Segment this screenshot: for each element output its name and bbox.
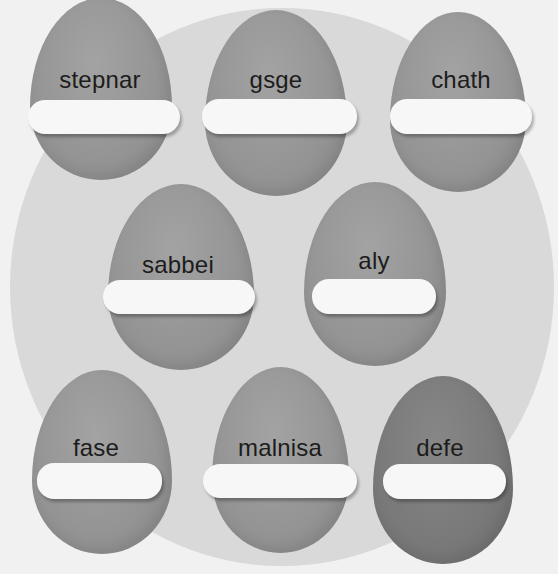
answer-field-chath[interactable]	[390, 99, 532, 134]
answer-field-aly[interactable]	[312, 279, 436, 314]
scrambled-word: aly	[358, 247, 389, 275]
scrambled-word: fase	[73, 434, 119, 462]
answer-field-malnisa[interactable]	[203, 464, 357, 498]
answer-field-defe[interactable]	[383, 464, 506, 499]
scrambled-word: gsge	[250, 66, 303, 94]
answer-field-gsge[interactable]	[202, 99, 357, 134]
answer-field-fase[interactable]	[37, 463, 162, 499]
scrambled-word: defe	[416, 434, 464, 462]
answer-field-stepnar[interactable]	[28, 100, 180, 134]
scrambled-word: sabbei	[142, 251, 214, 279]
scrambled-word: stepnar	[59, 66, 140, 94]
scrambled-word: chath	[431, 66, 491, 94]
answer-field-sabbei[interactable]	[103, 280, 255, 314]
scrambled-word: malnisa	[238, 434, 322, 462]
egg-word-worksheet: stepnar gsge chath sabbei aly fase malni…	[0, 0, 558, 574]
